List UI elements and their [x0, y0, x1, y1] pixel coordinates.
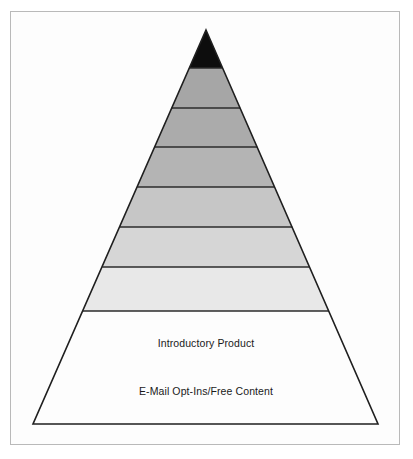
- tier-band-3: [0, 108, 413, 147]
- tier-band-8: [0, 311, 413, 424]
- tier-label-introductory-product: Introductory Product: [158, 337, 255, 349]
- tier-band-4: [0, 147, 413, 187]
- tier-label-email-opt-ins: E-Mail Opt-Ins/Free Content: [139, 385, 273, 397]
- tier-band-1: [0, 30, 413, 68]
- tier-band-5: [0, 187, 413, 227]
- pyramid-figure: Introductory Product E-Mail Opt-Ins/Free…: [0, 0, 413, 459]
- tier-band-6: [0, 227, 413, 267]
- tier-band-7: [0, 267, 413, 311]
- tier-band-2: [0, 68, 413, 108]
